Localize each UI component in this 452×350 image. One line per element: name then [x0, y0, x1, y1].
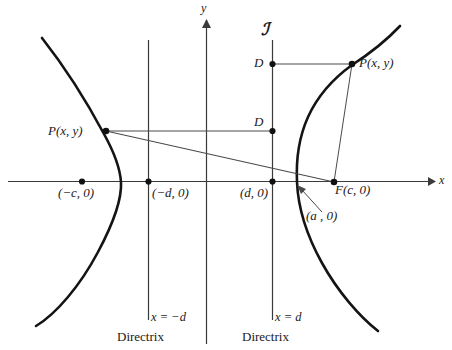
focus-right-label: F(c, 0): [335, 183, 370, 196]
point-p-right: [349, 61, 356, 68]
vertex-a-label: (a , 0): [306, 209, 337, 222]
left-directrix-equation: x = −d: [151, 311, 186, 324]
point-d-label: (d, 0): [240, 186, 268, 199]
point-minus-d: [145, 178, 151, 184]
hyperbola-right-branch: [297, 26, 400, 331]
point-minus-c-label: (−c, 0): [58, 186, 94, 199]
right-directrix-equation: x = d: [275, 311, 301, 324]
y-axis-label: y: [201, 2, 206, 14]
point-D-upper: [269, 61, 275, 67]
script-d-label: ℐ: [261, 21, 269, 38]
x-axis-label: x: [439, 174, 444, 186]
directrix-point-upper-label: D: [254, 56, 263, 69]
hyperbola-figure: x y ℐ D D P(x, y) P(x, y) F(c, 0) (−c, 0…: [0, 0, 452, 350]
marked-points: [79, 61, 355, 186]
point-p-left-label: P(x, y): [48, 124, 83, 137]
right-directrix-caption: Directrix: [242, 330, 289, 343]
point-minus-d-label: (−d, 0): [152, 186, 189, 199]
point-d: [269, 178, 275, 184]
segment-P-to-focus-right: [334, 64, 352, 182]
left-directrix-caption: Directrix: [117, 330, 164, 343]
point-p-left: [103, 128, 110, 135]
point-p-right-label: P(x, y): [359, 56, 394, 69]
point-D-lower: [269, 128, 275, 134]
point-minus-c: [79, 178, 85, 184]
figure-canvas: [0, 0, 452, 350]
directrix-point-lower-label: D: [254, 115, 263, 128]
